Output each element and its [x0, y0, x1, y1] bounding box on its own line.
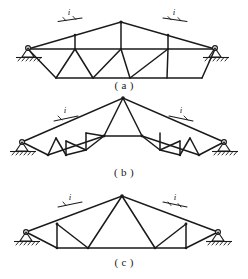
- web-right-c: [122, 196, 186, 248]
- top-chord-c: [26, 196, 218, 232]
- slope-label-left-b: i: [64, 105, 67, 115]
- slope-label-left-c: i: [69, 192, 72, 202]
- roller-support-right-c: [206, 230, 232, 245]
- slope-marker-right-a: i: [163, 7, 187, 22]
- panel-caption-b: ( b ): [0, 166, 248, 178]
- slope-label-right-a: i: [173, 7, 176, 17]
- bottom-chord-c: [26, 232, 218, 248]
- slope-marker-left-a: i: [58, 7, 82, 22]
- panel-caption-c: ( c ): [0, 256, 248, 268]
- vertical-webs-a: [75, 22, 168, 49]
- slope-label-left-a: i: [68, 7, 71, 17]
- slope-marker-right-b: i: [169, 105, 193, 121]
- truss-figure: i i ( a ): [0, 0, 248, 279]
- roller-support-right-a: [203, 46, 229, 61]
- slope-marker-left-c: i: [58, 192, 82, 207]
- roller-support-right-b: [212, 140, 238, 155]
- web-left-c: [57, 196, 122, 248]
- slope-label-right-b: i: [180, 105, 183, 115]
- lower-web-a: [28, 49, 215, 78]
- slope-label-right-c: i: [174, 192, 177, 202]
- slope-marker-right-c: i: [163, 192, 187, 207]
